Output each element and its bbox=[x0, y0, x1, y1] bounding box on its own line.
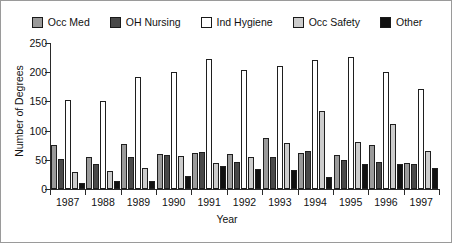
x-tick-label: 1996 bbox=[368, 196, 403, 210]
legend-label: Other bbox=[396, 17, 422, 28]
bar-group bbox=[121, 43, 156, 189]
bar bbox=[213, 163, 219, 189]
y-tick-label: 250 bbox=[19, 37, 47, 49]
bar bbox=[192, 153, 198, 189]
x-tick-mark bbox=[333, 190, 334, 195]
bar bbox=[241, 70, 247, 189]
bar bbox=[79, 183, 85, 189]
y-tick-mark bbox=[45, 101, 50, 102]
y-tick-label: 150 bbox=[19, 95, 47, 107]
bar-group bbox=[156, 43, 191, 189]
legend-item[interactable]: Ind Hygiene bbox=[201, 17, 273, 28]
x-tick-label: 1989 bbox=[121, 196, 156, 210]
bar bbox=[178, 156, 184, 189]
bar-group bbox=[298, 43, 333, 189]
bar bbox=[334, 155, 340, 189]
bar bbox=[348, 57, 354, 189]
bar bbox=[255, 169, 261, 189]
bar bbox=[432, 168, 438, 189]
bar bbox=[121, 144, 127, 189]
y-tick-label: 200 bbox=[19, 66, 47, 78]
bar bbox=[199, 152, 205, 189]
bar bbox=[291, 170, 297, 189]
bar bbox=[390, 124, 396, 189]
bar bbox=[234, 162, 240, 189]
bar bbox=[397, 164, 403, 189]
bar bbox=[362, 164, 368, 189]
x-tick-label: 1994 bbox=[298, 196, 333, 210]
bar bbox=[319, 111, 325, 189]
bar-groups bbox=[50, 43, 439, 189]
bar bbox=[86, 157, 92, 189]
bar bbox=[404, 163, 410, 189]
bar-group bbox=[404, 43, 439, 189]
legend-item[interactable]: Occ Safety bbox=[293, 17, 360, 28]
bar bbox=[58, 159, 64, 189]
y-tick-label: 0 bbox=[19, 183, 47, 195]
chart-figure: Occ MedOH NursingInd HygieneOcc SafetyOt… bbox=[0, 0, 452, 243]
legend-swatch-icon bbox=[201, 17, 212, 28]
x-tick-label: 1990 bbox=[156, 196, 191, 210]
x-tick-mark bbox=[262, 190, 263, 195]
bar bbox=[411, 164, 417, 189]
bar bbox=[376, 162, 382, 189]
x-tick-mark bbox=[156, 190, 157, 195]
bar bbox=[220, 166, 226, 189]
bar bbox=[135, 77, 141, 189]
y-tick-label: 50 bbox=[19, 154, 47, 166]
bar bbox=[51, 145, 57, 189]
legend-label: Occ Med bbox=[48, 17, 90, 28]
bar bbox=[248, 157, 254, 189]
y-tick-mark bbox=[45, 160, 50, 161]
bar bbox=[185, 176, 191, 189]
bar bbox=[418, 89, 424, 189]
bar bbox=[107, 171, 113, 189]
x-tick-mark bbox=[404, 190, 405, 195]
legend-item[interactable]: Occ Med bbox=[32, 17, 90, 28]
legend-swatch-icon bbox=[293, 17, 304, 28]
bar bbox=[270, 157, 276, 189]
bar bbox=[326, 177, 332, 189]
x-tick-mark bbox=[50, 190, 51, 195]
bar bbox=[157, 154, 163, 189]
y-axis-ticks: 050100150200250 bbox=[19, 43, 47, 195]
bar bbox=[206, 59, 212, 189]
x-tick-mark bbox=[368, 190, 369, 195]
x-tick-label: 1997 bbox=[404, 196, 439, 210]
legend-item[interactable]: OH Nursing bbox=[110, 17, 181, 28]
y-tick-mark bbox=[45, 131, 50, 132]
bar-group bbox=[227, 43, 262, 189]
x-tick-label: 1987 bbox=[50, 196, 85, 210]
x-tick-mark bbox=[191, 190, 192, 195]
bar bbox=[142, 168, 148, 189]
x-axis-label: Year bbox=[1, 213, 452, 225]
x-tick-label: 1991 bbox=[191, 196, 226, 210]
x-tick-mark bbox=[298, 190, 299, 195]
bar bbox=[383, 72, 389, 189]
bar bbox=[263, 138, 269, 189]
bar bbox=[128, 157, 134, 189]
legend-swatch-icon bbox=[380, 17, 391, 28]
legend-label: Ind Hygiene bbox=[217, 17, 273, 28]
bar bbox=[149, 181, 155, 189]
bar bbox=[355, 142, 361, 189]
bar bbox=[93, 164, 99, 189]
bar bbox=[425, 151, 431, 189]
bar-group bbox=[85, 43, 120, 189]
bar bbox=[298, 153, 304, 189]
bar bbox=[227, 154, 233, 189]
bar bbox=[312, 60, 318, 189]
bar-group bbox=[50, 43, 85, 189]
bar-group bbox=[333, 43, 368, 189]
bar bbox=[171, 72, 177, 189]
bar bbox=[369, 145, 375, 189]
legend-item[interactable]: Other bbox=[380, 17, 422, 28]
y-tick-mark bbox=[45, 72, 50, 73]
bar bbox=[114, 181, 120, 189]
y-tick-mark bbox=[45, 43, 50, 44]
bar bbox=[65, 100, 71, 189]
chart-legend: Occ MedOH NursingInd HygieneOcc SafetyOt… bbox=[1, 11, 452, 33]
legend-swatch-icon bbox=[32, 17, 43, 28]
x-tick-label: 1992 bbox=[227, 196, 262, 210]
bar bbox=[341, 160, 347, 189]
